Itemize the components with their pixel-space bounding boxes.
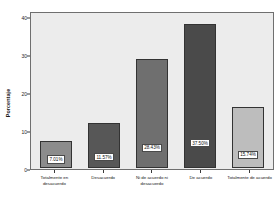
x-tick-mark bbox=[103, 170, 104, 173]
bar-value-label: 11.57% bbox=[94, 153, 114, 161]
bar-slot: 11.57% bbox=[82, 14, 125, 168]
y-axis-title-text: Porcentaje bbox=[5, 89, 11, 118]
bar-totalmente-de-acuerdo[interactable]: 15.74% bbox=[232, 107, 263, 168]
x-tick-mark bbox=[249, 170, 250, 173]
x-tick-slot bbox=[130, 170, 174, 174]
x-label-de-acuerdo: De acuerdo bbox=[178, 175, 223, 203]
x-tick-slot bbox=[228, 170, 272, 174]
y-axis-tick-labels: 40 30 20 10 0 bbox=[14, 18, 30, 170]
x-label-desacuerdo: Desacuerdo bbox=[81, 175, 126, 203]
x-label-ni-de-acuerdo-ni-desacuerdo: Ni de acuerdo ni desacuerdo bbox=[129, 175, 174, 203]
x-label-totalmente-de-acuerdo: Totalmente de acuerdo bbox=[227, 175, 272, 203]
bar-chart-figure: Porcentaje 40 30 20 10 0 7.01% 11.57% bbox=[0, 0, 280, 206]
bar-slot: 15.74% bbox=[226, 14, 269, 168]
bar-totalmente-en-desacuerdo[interactable]: 7.01% bbox=[40, 141, 71, 168]
x-tick-slot bbox=[179, 170, 223, 174]
bar-slot: 7.01% bbox=[34, 14, 77, 168]
bar-value-label: 28.43% bbox=[142, 144, 163, 152]
bar-de-acuerdo[interactable]: 37.50% bbox=[184, 24, 215, 168]
y-axis-title: Porcentaje bbox=[1, 0, 15, 206]
plot-area: 7.01% 11.57% 28.43% 37.50% 15.74 bbox=[30, 12, 274, 170]
bar-value-label: 7.01% bbox=[47, 155, 65, 163]
x-label-totalmente-en-desacuerdo: Totalmente en desacuerdo bbox=[32, 175, 77, 203]
x-tick-mark bbox=[54, 170, 55, 173]
x-tick-slot bbox=[81, 170, 125, 174]
x-tick-slot bbox=[32, 170, 76, 174]
bar-value-label: 37.50% bbox=[190, 139, 211, 147]
bar-slot: 28.43% bbox=[130, 14, 173, 168]
bar-series: 7.01% 11.57% 28.43% 37.50% 15.74 bbox=[32, 14, 272, 168]
bar-ni-de-acuerdo-ni-desacuerdo[interactable]: 28.43% bbox=[136, 59, 167, 168]
x-axis-category-labels: Totalmente en desacuerdo Desacuerdo Ni d… bbox=[30, 175, 274, 203]
x-tick-mark bbox=[151, 170, 152, 173]
bar-desacuerdo[interactable]: 11.57% bbox=[88, 123, 119, 168]
x-axis-tick-marks bbox=[30, 170, 274, 174]
x-tick-mark bbox=[200, 170, 201, 173]
bar-value-label: 15.74% bbox=[238, 151, 259, 159]
bar-slot: 37.50% bbox=[178, 14, 221, 168]
